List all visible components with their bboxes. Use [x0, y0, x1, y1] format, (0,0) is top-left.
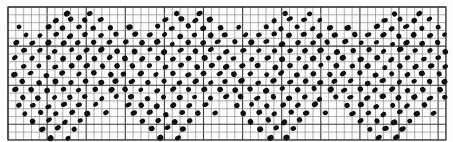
scan-speckle [145, 13, 146, 14]
scan-speckle [123, 13, 124, 14]
scan-speckle [367, 78, 368, 79]
scan-speckle [272, 13, 273, 14]
scan-speckle [449, 107, 450, 108]
scan-speckle [270, 116, 271, 117]
scan-speckle [264, 41, 265, 42]
scan-speckle [246, 4, 247, 5]
scan-speckle [377, 116, 378, 117]
scan-speckle [88, 115, 89, 116]
scan-speckle [15, 29, 16, 30]
scan-speckle [328, 47, 329, 48]
scan-speckle [245, 75, 246, 76]
scan-speckle [174, 28, 175, 29]
scan-speckle [225, 46, 226, 47]
scan-speckle [447, 102, 448, 103]
scan-speckle [138, 136, 139, 137]
scan-speckle [96, 101, 97, 102]
scan-speckle [6, 106, 7, 107]
scan-speckle [49, 134, 50, 135]
scan-speckle [422, 111, 423, 112]
scan-speckle [300, 65, 301, 66]
scan-speckle [239, 48, 240, 49]
scan-speckle [268, 44, 269, 45]
scan-speckle [96, 97, 97, 98]
scan-speckle [47, 90, 48, 91]
scan-speckle [117, 99, 118, 100]
scan-speckle [126, 64, 127, 65]
scan-speckle [445, 120, 446, 121]
scan-speckle [429, 62, 430, 63]
scan-speckle [297, 83, 298, 84]
scan-speckle [144, 50, 145, 51]
scan-speckle [162, 129, 163, 130]
scan-speckle [263, 52, 264, 53]
scan-speckle [176, 103, 177, 104]
scan-speckle [390, 80, 391, 81]
scan-speckle [49, 57, 50, 58]
scan-speckle [25, 87, 26, 88]
scan-speckle [206, 86, 207, 87]
scan-speckle [4, 82, 5, 83]
scan-speckle [448, 6, 449, 7]
scan-speckle [16, 138, 17, 139]
scan-speckle [123, 118, 124, 119]
scan-speckle [373, 132, 374, 133]
scan-speckle [224, 115, 225, 116]
scan-speckle [126, 10, 127, 11]
scan-speckle [298, 124, 299, 125]
scan-speckle [334, 4, 335, 5]
scan-speckle [266, 113, 267, 114]
scan-speckle [367, 82, 368, 83]
scan-speckle [11, 10, 12, 11]
scan-speckle [427, 138, 428, 139]
scan-speckle [369, 102, 370, 103]
scan-speckle [8, 91, 9, 92]
scan-speckle [380, 102, 381, 103]
scan-speckle [386, 92, 387, 93]
scan-speckle [116, 29, 117, 30]
scan-speckle [96, 109, 97, 110]
scan-speckle [226, 61, 227, 62]
scan-speckle [334, 83, 335, 84]
scan-speckle [253, 3, 254, 4]
scan-speckle [169, 51, 170, 52]
scan-speckle [10, 81, 11, 82]
scan-speckle [136, 21, 137, 22]
scan-speckle [360, 96, 361, 97]
scan-speckle [22, 110, 23, 111]
scan-speckle [214, 50, 215, 51]
scan-speckle [110, 115, 111, 116]
scan-speckle [356, 93, 357, 94]
scan-speckle [74, 27, 75, 28]
scan-speckle [256, 128, 257, 129]
scan-speckle [420, 111, 421, 112]
scan-speckle [365, 119, 366, 120]
scan-speckle [355, 120, 356, 121]
scan-speckle [174, 91, 175, 92]
scan-speckle [154, 128, 155, 129]
scan-speckle [171, 131, 172, 132]
scan-speckle [107, 108, 108, 109]
scan-speckle [220, 95, 221, 96]
scan-speckle [199, 76, 200, 77]
scan-speckle [168, 100, 169, 101]
scan-speckle [436, 7, 437, 8]
scan-speckle [202, 18, 203, 19]
scan-speckle [248, 116, 249, 117]
scan-speckle [319, 33, 320, 34]
scan-speckle [156, 132, 157, 133]
scan-speckle [258, 83, 259, 84]
scan-speckle [64, 90, 65, 91]
scan-speckle [15, 76, 16, 77]
scan-speckle [289, 132, 290, 133]
scan-speckle [183, 30, 184, 31]
scan-speckle [303, 65, 304, 66]
scan-speckle [403, 35, 404, 36]
scan-speckle [59, 53, 60, 54]
scan-speckle [79, 26, 80, 27]
scan-speckle [33, 25, 34, 26]
scan-speckle [404, 75, 405, 76]
scan-speckle [335, 118, 336, 119]
scan-speckle [202, 82, 203, 83]
scan-speckle [188, 7, 189, 8]
